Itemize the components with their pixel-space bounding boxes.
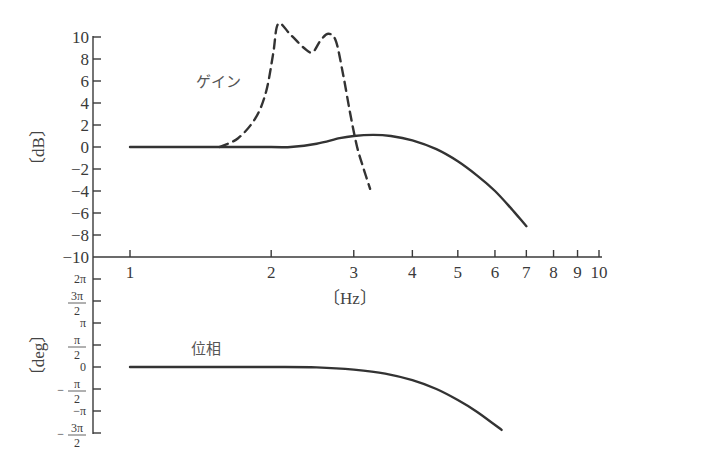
- phase-tick-numerator: π: [74, 377, 80, 391]
- gain-tick-label: 6: [81, 72, 90, 91]
- frequency-tick-label: 4: [408, 263, 417, 282]
- gain-tick-label: −8: [71, 226, 89, 245]
- gain-annotation: ゲイン: [196, 73, 241, 91]
- frequency-tick-label: 5: [454, 263, 463, 282]
- frequency-tick-label: 10: [591, 263, 608, 282]
- phase-tick-label: 0: [80, 360, 86, 374]
- frequency-tick-label: 1: [126, 263, 135, 282]
- gain-ticks: 1086420−2−4−6−8−10: [62, 28, 101, 267]
- frequency-tick-label: 6: [491, 263, 500, 282]
- phase-tick-denominator: 2: [74, 436, 80, 450]
- frequency-tick-label: 2: [267, 263, 276, 282]
- phase-tick-sign: −: [57, 383, 64, 397]
- frequency-tick-label: 7: [522, 263, 531, 282]
- gain-dashed-curve: [219, 23, 370, 189]
- gain-tick-label: 10: [72, 28, 89, 47]
- phase-tick-label: −π: [73, 404, 86, 418]
- gain-tick-label: 4: [81, 94, 90, 113]
- phase-tick-sign: −: [57, 427, 64, 441]
- phase-tick-numerator: 3π: [71, 421, 83, 435]
- phase-tick-label: 2π: [74, 272, 86, 286]
- bode-plot: 1086420−2−4−6−8−10 2π3π2ππ20π2−−π3π2− 12…: [0, 0, 703, 468]
- gain-tick-label: −2: [71, 160, 89, 179]
- frequency-tick-label: 3: [350, 263, 359, 282]
- frequency-ticks: 12345678910: [126, 250, 608, 282]
- frequency-tick-label: 9: [573, 263, 582, 282]
- gain-tick-label: −6: [71, 204, 89, 223]
- gain-tick-label: 0: [81, 138, 90, 157]
- gain-tick-label: 8: [81, 50, 90, 69]
- phase-unit-label: 〔deg〕: [29, 326, 48, 385]
- gain-tick-label: 2: [81, 116, 90, 135]
- phase-tick-label: π: [80, 316, 86, 330]
- phase-tick-numerator: π: [74, 333, 80, 347]
- gain-tick-label: −4: [71, 182, 90, 201]
- frequency-unit-label: 〔Hz〕: [323, 289, 377, 308]
- gain-unit-label: 〔dB〕: [29, 120, 48, 174]
- phase-annotation: 位相: [191, 340, 221, 358]
- gain-tick-label: −10: [62, 248, 89, 267]
- gain-solid-curve: [130, 135, 526, 226]
- phase-tick-numerator: 3π: [71, 289, 83, 303]
- phase-ticks: 2π3π2ππ20π2−−π3π2−: [57, 272, 101, 450]
- frequency-tick-label: 8: [549, 263, 558, 282]
- phase-curve: [130, 367, 502, 430]
